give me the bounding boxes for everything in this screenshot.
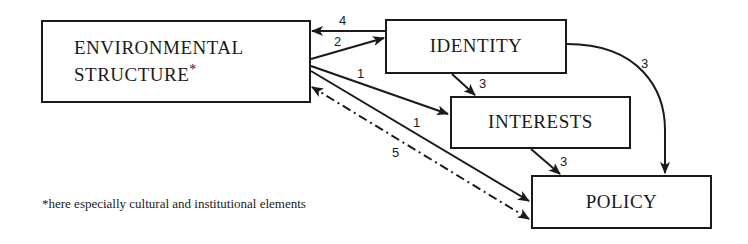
edge-label-2: 2 <box>334 34 341 49</box>
node-policy-label: POLICY <box>586 189 658 216</box>
edge-label-4: 4 <box>339 13 346 28</box>
edge-label-5: 5 <box>392 145 399 160</box>
asterisk-marker: * <box>189 62 197 77</box>
edge-identity-to-interests <box>452 74 475 95</box>
footnote: *here especially cultural and institutio… <box>42 196 306 212</box>
node-policy: POLICY <box>531 175 712 229</box>
node-identity: IDENTITY <box>385 19 567 74</box>
edge-label-3-interests-policy: 3 <box>560 154 567 169</box>
node-environmental-structure-label: ENVIRONMENTAL STRUCTURE* <box>74 35 244 88</box>
edge-environment-to-identity <box>311 38 384 59</box>
node-interests: INTERESTS <box>450 96 631 149</box>
env-line-1: ENVIRONMENTAL <box>74 35 244 62</box>
edge-label-3-identity-interests: 3 <box>479 76 486 91</box>
edge-label-1-interests: 1 <box>357 66 364 81</box>
edge-interests-to-policy <box>531 149 560 174</box>
node-interests-label: INTERESTS <box>488 109 593 136</box>
edge-label-1-policy: 1 <box>413 115 420 130</box>
env-line-2-text: STRUCTURE <box>74 64 189 85</box>
node-environmental-structure: ENVIRONMENTAL STRUCTURE* <box>41 20 311 103</box>
node-identity-label: IDENTITY <box>430 33 523 60</box>
env-line-2: STRUCTURE* <box>74 62 244 89</box>
edge-label-3-identity-policy: 3 <box>641 56 648 71</box>
